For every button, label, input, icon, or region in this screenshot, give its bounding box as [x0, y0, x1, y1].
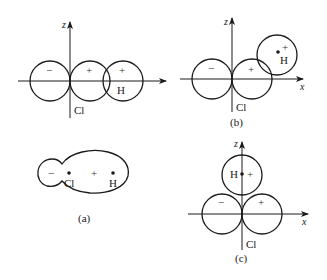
sign-positive-h: + — [247, 168, 253, 180]
atom-label-h: H — [230, 168, 238, 180]
panel-a: − + Cl H (a) — [38, 151, 129, 226]
panel-caption: (b) — [230, 116, 243, 129]
atom-label-h: H — [117, 84, 125, 96]
cl-nucleus-dot — [67, 171, 71, 175]
sign-positive: + — [91, 167, 97, 179]
atom-label-cl: Cl — [64, 177, 74, 189]
panel-top-left: z − + + H Cl — [18, 19, 166, 118]
h-s-orbital — [257, 35, 297, 75]
sign-positive-h: + — [119, 64, 125, 76]
sign-negative: − — [48, 167, 54, 179]
sign-negative: − — [46, 64, 52, 76]
atom-label-cl: Cl — [246, 238, 256, 250]
h-nucleus-dot — [240, 172, 244, 176]
atom-label-h: H — [280, 54, 288, 66]
sign-negative: − — [218, 196, 224, 208]
x-axis-label: x — [299, 81, 305, 92]
panel-caption: (c) — [235, 252, 248, 265]
z-axis-label: z — [61, 19, 66, 30]
panel-caption: (a) — [78, 212, 91, 225]
sign-positive: + — [258, 196, 264, 208]
sign-negative: − — [208, 62, 214, 74]
sign-positive: + — [248, 63, 254, 75]
panel-b: z x − + + H Cl (b) — [180, 16, 305, 129]
sign-positive: + — [86, 64, 92, 76]
atom-label-h: H — [109, 177, 117, 189]
h-nucleus-dot — [111, 171, 115, 175]
atom-label-cl: Cl — [74, 104, 84, 116]
sign-positive-h: + — [282, 41, 288, 53]
x-axis-label: x — [301, 216, 307, 227]
z-axis-label: z — [233, 138, 238, 149]
orbital-overlap-figure: z − + + H Cl z x − + + H Cl (b) − + Cl H… — [0, 0, 327, 280]
z-axis-label: z — [223, 16, 228, 27]
atom-label-cl: Cl — [236, 101, 246, 113]
panel-c: z x H + − + Cl (c) — [188, 138, 308, 265]
